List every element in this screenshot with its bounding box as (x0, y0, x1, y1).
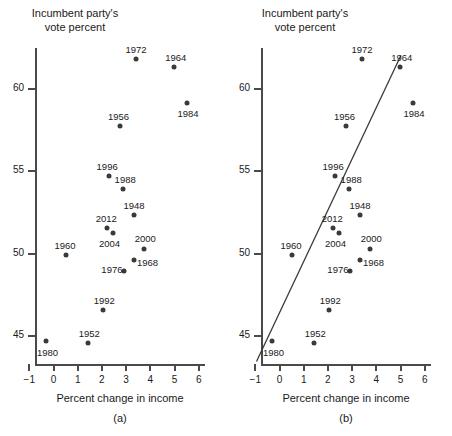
data-point (105, 226, 110, 231)
x-axis-tick (125, 364, 127, 371)
data-point-label: 1992 (320, 295, 341, 306)
data-point-label: 1980 (263, 346, 284, 357)
data-point-label: 1992 (94, 295, 115, 306)
data-point-label: 1956 (108, 110, 129, 121)
data-point (368, 247, 373, 252)
data-point (64, 253, 69, 258)
data-point (44, 338, 49, 343)
data-point-label: 1976 (101, 263, 122, 274)
data-point (347, 187, 352, 192)
data-point-label: 1952 (79, 327, 100, 338)
data-point-label: 1968 (137, 257, 158, 268)
x-axis-tick (351, 364, 353, 371)
x-axis-tick (254, 364, 256, 371)
data-point (327, 308, 332, 313)
x-axis-tick (77, 364, 79, 371)
x-axis-tick-label: 5 (166, 374, 184, 385)
x-axis-tick (174, 364, 176, 371)
y-axis-title: Incumbent party's vote percent (230, 6, 380, 34)
y-axis (261, 48, 263, 364)
x-axis-tick-label: 0 (271, 374, 289, 385)
y-axis-tick (254, 253, 262, 255)
data-point (131, 258, 136, 263)
y-axis-tick (28, 253, 36, 255)
y-axis-tick (28, 170, 36, 172)
data-point (142, 247, 147, 252)
data-point-label: 1996 (97, 160, 118, 171)
x-axis-tick-label: −1 (246, 374, 264, 385)
x-axis-tick (279, 364, 281, 371)
x-axis-tick (327, 364, 329, 371)
data-point-label: 1972 (125, 44, 146, 55)
data-point-label: 2000 (361, 233, 382, 244)
data-point (171, 64, 176, 69)
data-point (101, 308, 106, 313)
x-axis-tick (400, 364, 402, 371)
data-point (358, 212, 363, 217)
panel-label: (a) (30, 412, 210, 424)
data-point-label: 2004 (99, 238, 120, 249)
data-point-label: 1984 (404, 107, 425, 118)
x-axis-tick-label: 6 (190, 374, 208, 385)
y-axis-tick-label: 45 (228, 329, 250, 340)
data-point-label: 1948 (124, 199, 145, 210)
data-point-label: 1972 (351, 44, 372, 55)
data-point-label: 1988 (341, 174, 362, 185)
data-point-label: 1960 (55, 240, 76, 251)
y-axis-tick (28, 335, 36, 337)
data-point-label: 1960 (281, 240, 302, 251)
y-axis-tick-label: 60 (228, 82, 250, 93)
y-axis-tick-label: 45 (2, 329, 24, 340)
data-point (185, 100, 190, 105)
y-axis-title: Incumbent party's vote percent (0, 6, 150, 34)
y-axis (35, 48, 37, 364)
data-point-label: 1996 (323, 160, 344, 171)
x-axis-tick-label: 0 (45, 374, 63, 385)
data-point (360, 57, 365, 62)
data-point-label: 1948 (350, 199, 371, 210)
data-point-label: 1976 (327, 263, 348, 274)
data-point-label: 1964 (165, 51, 186, 62)
y-axis-tick (254, 88, 262, 90)
data-point (397, 64, 402, 69)
x-axis-tick-label: 4 (141, 374, 159, 385)
x-axis-tick-label: 1 (69, 374, 87, 385)
data-point (312, 340, 317, 345)
x-axis-tick-label: 6 (416, 374, 434, 385)
x-axis-tick (28, 364, 30, 371)
x-axis (261, 364, 431, 366)
data-point (331, 226, 336, 231)
y-axis-tick-label: 50 (2, 247, 24, 258)
data-point-label: 1984 (178, 107, 199, 118)
data-point-label: 1964 (391, 51, 412, 62)
data-point (411, 100, 416, 105)
data-point-label: 2012 (322, 213, 343, 224)
x-axis-tick-label: 3 (117, 374, 135, 385)
x-axis-label: Percent change in income (30, 392, 210, 404)
y-axis-tick-label: 50 (228, 247, 250, 258)
scatter-plot-figure: Incumbent party's vote percent45505560−1… (0, 0, 452, 436)
data-point (290, 253, 295, 258)
data-point-label: 1980 (37, 346, 58, 357)
x-axis-tick (149, 364, 151, 371)
x-axis-label: Percent change in income (256, 392, 436, 404)
x-axis-tick (53, 364, 55, 371)
panel-a: Incumbent party's vote percent45505560−1… (0, 0, 226, 436)
x-axis-tick (303, 364, 305, 371)
data-point (270, 338, 275, 343)
data-point (86, 340, 91, 345)
data-point (107, 173, 112, 178)
data-point (134, 57, 139, 62)
x-axis-tick (375, 364, 377, 371)
x-axis-tick-label: 2 (93, 374, 111, 385)
data-point-label: 1956 (334, 110, 355, 121)
data-point (336, 231, 341, 236)
data-point-label: 1968 (363, 257, 384, 268)
x-axis-tick-label: 2 (319, 374, 337, 385)
data-point (110, 231, 115, 236)
data-point (357, 258, 362, 263)
x-axis-tick-label: 4 (367, 374, 385, 385)
panel-b: Incumbent party's vote percent45505560−1… (226, 0, 452, 436)
data-point (117, 123, 122, 128)
data-point-label: 1952 (305, 327, 326, 338)
